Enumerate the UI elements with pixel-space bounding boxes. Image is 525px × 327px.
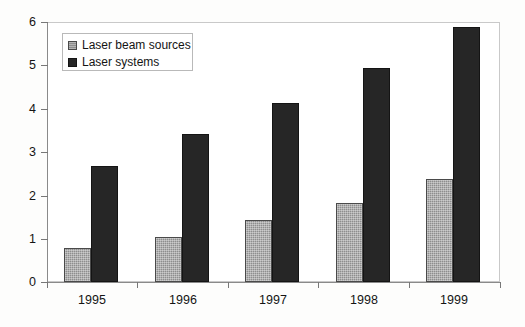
x-tick-label-1999: 1999 [414, 294, 494, 307]
legend: Laser beam sources Laser systems [62, 33, 193, 71]
y-tick-mark-2 [41, 196, 48, 197]
y-tick-label-1: 1 [14, 233, 36, 246]
x-tick-mark-3 [318, 282, 319, 288]
y-tick-label-0: 0 [14, 276, 36, 289]
y-tick-mark-6 [41, 22, 48, 23]
x-tick-mark-5 [500, 282, 501, 288]
bar-laser-systems-1997 [272, 103, 299, 282]
bar-laser-systems-1996 [182, 134, 209, 282]
legend-label-laser-beam-sources: Laser beam sources [82, 39, 191, 51]
y-tick-label-2: 2 [14, 190, 36, 203]
bar-laser-beam-sources-1996 [155, 237, 182, 283]
x-tick-mark-2 [228, 282, 229, 288]
y-tick-label-4: 4 [14, 103, 36, 116]
x-tick-label-1995: 1995 [52, 294, 132, 307]
x-tick-mark-4 [409, 282, 410, 288]
x-tick-label-1998: 1998 [324, 294, 404, 307]
y-tick-mark-3 [41, 152, 48, 153]
bar-laser-beam-sources-1995 [64, 248, 91, 282]
bar-laser-systems-1998 [363, 68, 390, 283]
x-axis-line [47, 282, 501, 283]
y-tick-label-3: 3 [14, 146, 36, 159]
bar-laser-systems-1995 [91, 166, 118, 282]
y-tick-mark-1 [41, 239, 48, 240]
legend-swatch-icon-laser-beam-sources [68, 41, 77, 50]
y-tick-label-5: 5 [14, 59, 36, 72]
legend-item-laser-beam-sources: Laser beam sources [68, 37, 187, 53]
x-tick-label-1997: 1997 [233, 294, 313, 307]
y-tick-mark-5 [41, 65, 48, 66]
x-tick-label-1996: 1996 [143, 294, 223, 307]
legend-swatch-icon-laser-systems [68, 58, 77, 67]
bar-chart-figure: 6 5 4 3 2 1 0 1995 1996 1997 1998 1999 L… [0, 0, 525, 327]
x-tick-mark-0 [47, 282, 48, 288]
legend-item-laser-systems: Laser systems [68, 54, 187, 70]
bar-laser-beam-sources-1999 [426, 179, 453, 282]
x-tick-mark-1 [137, 282, 138, 288]
bar-laser-beam-sources-1997 [245, 220, 272, 282]
y-tick-mark-4 [41, 109, 48, 110]
bar-laser-beam-sources-1998 [336, 203, 363, 282]
bar-laser-systems-1999 [453, 27, 480, 282]
y-tick-label-6: 6 [14, 16, 36, 29]
legend-label-laser-systems: Laser systems [82, 56, 159, 68]
